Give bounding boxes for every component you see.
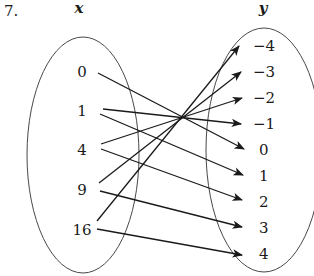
- domain-value: 1: [77, 102, 87, 120]
- arrow-4-to-2: [101, 149, 242, 200]
- range-value: 0: [259, 141, 269, 159]
- domain-value: 16: [72, 221, 91, 239]
- problem-number: 7.: [4, 2, 18, 20]
- arrow-16-to-4: [97, 229, 242, 255]
- range-value: 3: [259, 219, 269, 237]
- domain-value: 4: [77, 141, 87, 159]
- mapping-arrows: [97, 46, 244, 255]
- range-value: −3: [253, 63, 275, 81]
- arrow-9-to-3: [100, 191, 242, 227]
- arrow-16-to-neg4: [97, 46, 239, 221]
- domain-value: 9: [77, 181, 87, 199]
- arrow-9-to-neg3: [99, 72, 241, 183]
- range-label: y: [258, 0, 269, 17]
- range-value: −4: [253, 37, 275, 55]
- range-value: −2: [253, 89, 275, 107]
- domain-value: 0: [77, 63, 87, 81]
- range-value: 1: [259, 167, 269, 185]
- mapping-diagram: 7. x y 0 1 4 9 16 −4 −3 −2 −1 0 1 2 3 4: [0, 0, 314, 276]
- range-value: 2: [259, 193, 269, 211]
- domain-values: 0 1 4 9 16: [72, 63, 91, 239]
- range-value: 4: [259, 245, 269, 263]
- domain-label: x: [74, 0, 85, 17]
- range-values: −4 −3 −2 −1 0 1 2 3 4: [253, 37, 275, 263]
- range-value: −1: [253, 115, 275, 133]
